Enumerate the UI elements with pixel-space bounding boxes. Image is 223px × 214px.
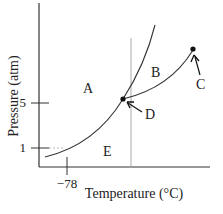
region-label-A: A	[83, 81, 94, 96]
x-axis-label: Temperature (°C)	[85, 186, 184, 202]
x-tick-label-minus78: −78	[57, 176, 77, 191]
melting-curve	[123, 25, 155, 99]
phase-diagram: 5 1 −78 Temperature (°C) Pressure (atm) …	[0, 0, 223, 214]
y-tick-label-1: 1	[20, 140, 27, 155]
region-label-B: B	[151, 65, 160, 80]
region-label-E: E	[103, 144, 112, 159]
label-D: D	[145, 107, 155, 122]
y-axis-label: Pressure (atm)	[6, 55, 22, 137]
triple-point-D	[120, 96, 125, 101]
label-C: C	[196, 77, 205, 92]
critical-point-C	[190, 46, 195, 51]
